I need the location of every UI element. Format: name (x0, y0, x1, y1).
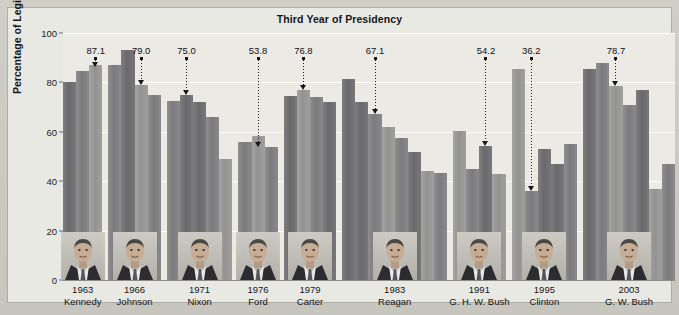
x-axis-label: 1966Johnson (117, 284, 153, 307)
callout-value: 36.2 (522, 45, 541, 56)
x-label-president: G. H. W. Bush (449, 296, 509, 308)
x-label-year: 1966 (117, 284, 153, 296)
portrait-carter (288, 232, 332, 280)
callout-arrow (482, 141, 488, 146)
bar[interactable] (434, 173, 447, 280)
callout-value: 78.7 (607, 45, 626, 56)
bar[interactable] (662, 164, 675, 280)
x-axis-label: 1983Reagan (378, 284, 411, 307)
callout-arrow (255, 142, 261, 147)
x-label-president: Nixon (187, 296, 211, 308)
chart-card: Third Year of Presidency Percentage of L… (8, 8, 671, 302)
x-label-year: 1983 (378, 284, 411, 296)
x-axis-label: 2003G. W. Bush (605, 284, 653, 307)
portrait-nixon (178, 232, 222, 280)
bar-group-clinton (512, 33, 578, 280)
portrait-kennedy (61, 232, 105, 280)
bar-group-kennedy (63, 33, 102, 280)
callout-arrow (612, 81, 618, 86)
y-tick-label-20: 20 (46, 225, 57, 236)
x-label-year: 1976 (247, 284, 268, 296)
x-label-president: Clinton (530, 296, 560, 308)
x-label-year: 1991 (449, 284, 509, 296)
portrait-reagan (373, 232, 417, 280)
callout-stem (485, 60, 486, 141)
y-tick-label-100: 100 (41, 28, 57, 39)
x-label-year: 1995 (530, 284, 560, 296)
callout-stem (375, 60, 376, 109)
x-label-year: 1979 (297, 284, 323, 296)
bar[interactable] (355, 102, 368, 280)
x-axis-label: 1979Carter (297, 284, 323, 307)
callout-value: 67.1 (366, 45, 385, 56)
x-axis-label: 1976Ford (247, 284, 268, 307)
callout-stem (303, 60, 304, 85)
callout-value: 54.2 (477, 45, 496, 56)
x-label-president: G. W. Bush (605, 296, 653, 308)
bar[interactable] (342, 79, 355, 280)
callout-arrow (528, 186, 534, 191)
callout-stem (531, 60, 532, 186)
x-axis-label: 1991G. H. W. Bush (449, 284, 509, 307)
callout-value: 87.1 (87, 45, 106, 56)
callout-value: 75.0 (177, 45, 196, 56)
chart-title: Third Year of Presidency (8, 13, 671, 25)
bar-group-reagan (342, 33, 447, 280)
x-axis-label: 1995Clinton (530, 284, 560, 307)
x-label-president: Ford (247, 296, 268, 308)
y-axis-title: Percentage of Legislation Passed (11, 0, 23, 94)
bar-group-g-w-bush (583, 33, 675, 280)
x-label-president: Johnson (117, 296, 153, 308)
bar-group-nixon (167, 33, 233, 280)
portrait-ford (236, 232, 280, 280)
callout-stem (615, 60, 616, 81)
x-label-year: 1971 (187, 284, 211, 296)
x-axis-line (63, 280, 675, 281)
callout-arrow (183, 90, 189, 95)
callout-stem (141, 60, 142, 80)
x-label-president: Kennedy (64, 296, 102, 308)
callout-value: 53.8 (249, 45, 268, 56)
y-tick-label-0: 0 (52, 275, 57, 286)
callout-value: 79.0 (132, 45, 151, 56)
x-axis-label: 1963Kennedy (64, 284, 102, 307)
y-tick-label-40: 40 (46, 176, 57, 187)
plot-area: 020406080100 87.179.075.053.876.867.154.… (63, 33, 675, 280)
portrait-clinton (522, 232, 566, 280)
portrait-johnson (113, 232, 157, 280)
y-tick-label-80: 80 (46, 77, 57, 88)
portrait-g-w-bush (607, 232, 651, 280)
bar-group-johnson (108, 33, 160, 280)
bar[interactable] (421, 171, 434, 280)
callout-stem (258, 60, 259, 142)
bar-group-carter (284, 33, 336, 280)
callout-arrow (92, 62, 98, 67)
callout-stem (186, 60, 187, 90)
callout-arrow (300, 85, 306, 90)
screenshot-root: Third Year of Presidency Percentage of L… (0, 0, 679, 315)
y-tick-label-60: 60 (46, 126, 57, 137)
bar[interactable] (583, 69, 596, 280)
portrait-g-h-w-bush (457, 232, 501, 280)
x-label-president: Reagan (378, 296, 411, 308)
callout-arrow (138, 80, 144, 85)
callout-arrow (372, 109, 378, 114)
x-axis-label: 1971Nixon (187, 284, 211, 307)
x-label-president: Carter (297, 296, 323, 308)
x-label-year: 1963 (64, 284, 102, 296)
bar-group-g-h-w-bush (453, 33, 505, 280)
callout-value: 76.8 (294, 45, 313, 56)
x-label-year: 2003 (605, 284, 653, 296)
